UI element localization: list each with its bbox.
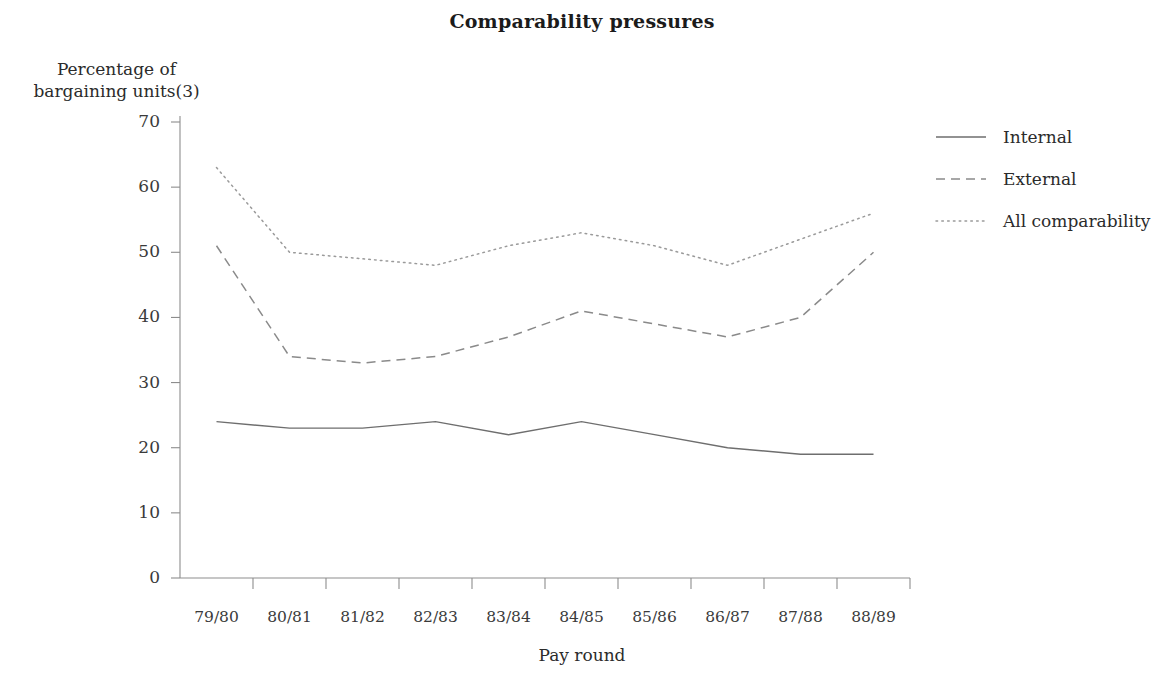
x-tick-label: 81/82 <box>323 610 403 626</box>
y-tick-label: 60 <box>108 178 160 195</box>
y-tick-label: 40 <box>108 308 160 325</box>
x-tick-label: 84/85 <box>542 610 622 626</box>
legend-item-all-comparability[interactable]: All comparability <box>935 200 1160 242</box>
y-tick-label: 50 <box>108 243 160 260</box>
x-tick-label: 82/83 <box>396 610 476 626</box>
chart-container: Comparability pressures Percentage of ba… <box>0 0 1164 694</box>
y-tick-label: 0 <box>108 569 160 586</box>
chart-legend: InternalExternalAll comparability <box>935 116 1160 242</box>
y-tick-label: 30 <box>108 374 160 391</box>
x-tick-label: 83/84 <box>469 610 549 626</box>
x-tick-label: 87/88 <box>761 610 841 626</box>
plot-area <box>0 0 1164 694</box>
legend-item-internal[interactable]: Internal <box>935 116 1160 158</box>
y-tick-label: 20 <box>108 439 160 456</box>
x-tick-label: 86/87 <box>688 610 768 626</box>
x-tick-label: 79/80 <box>177 610 257 626</box>
y-tick-label: 70 <box>108 113 160 130</box>
x-tick-label: 80/81 <box>250 610 330 626</box>
legend-swatch-solid <box>935 131 987 143</box>
x-tick-label: 85/86 <box>615 610 695 626</box>
legend-item-external[interactable]: External <box>935 158 1160 200</box>
legend-swatch-dotted <box>935 215 987 227</box>
legend-label: External <box>1003 169 1077 189</box>
legend-label: Internal <box>1003 127 1072 147</box>
y-tick-label: 10 <box>108 504 160 521</box>
legend-label: All comparability <box>1003 211 1150 231</box>
series-line-external <box>217 246 874 363</box>
legend-swatch-dashed <box>935 173 987 185</box>
series-line-all-comparability <box>217 168 874 266</box>
x-tick-label: 88/89 <box>834 610 914 626</box>
series-line-internal <box>217 422 874 455</box>
